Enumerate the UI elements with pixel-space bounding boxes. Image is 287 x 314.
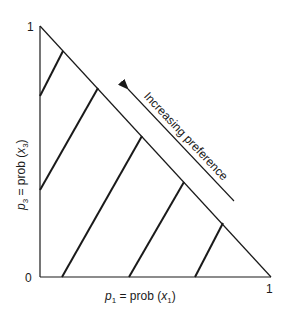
indifference-curve	[62, 136, 142, 277]
indifference-curve	[40, 88, 98, 190]
indifference-curve	[129, 182, 184, 277]
indifference-curve	[195, 223, 223, 277]
arrow-label: Increasing preference	[141, 89, 231, 183]
hypotenuse	[40, 26, 271, 277]
x-tick-min: 0	[25, 271, 32, 285]
indifference-curve	[40, 51, 63, 96]
probability-triangle-diagram: Increasing preference 1 0 1 p1 = prob (x…	[0, 0, 287, 314]
y-tick-max: 1	[27, 20, 34, 34]
increasing-preference-arrow	[128, 89, 234, 201]
x-axis-label: p1 = prob (x1)	[104, 289, 176, 305]
indifference-curves	[40, 51, 223, 277]
y-axis-label: p3 = prob (x3)	[14, 139, 30, 211]
x-tick-max: 1	[266, 282, 273, 296]
